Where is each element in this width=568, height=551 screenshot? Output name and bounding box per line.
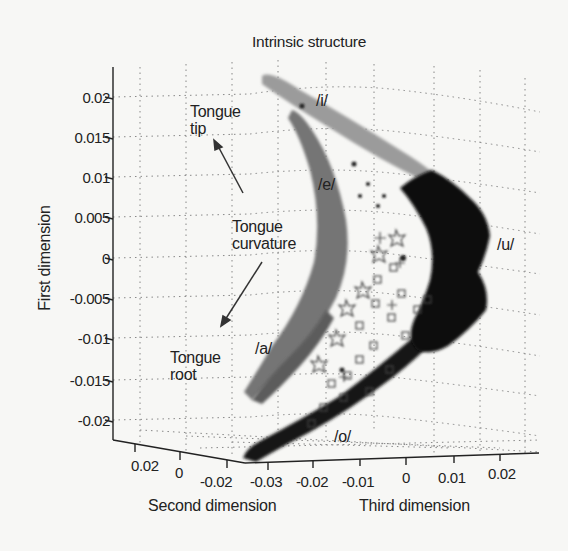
second-dimension-label: Second dimension bbox=[148, 497, 276, 515]
y-tick-label: -0.02 bbox=[78, 412, 110, 429]
third-dim-tick-label: 0.02 bbox=[488, 465, 516, 482]
third-dimension-label: Third dimension bbox=[359, 497, 470, 515]
y-tick-label: 0.01 bbox=[82, 169, 110, 186]
third-dim-tick-label: -0.02 bbox=[296, 473, 328, 490]
second-dim-tick-label: -0.02 bbox=[200, 473, 232, 490]
y-tick-label: 0.015 bbox=[74, 129, 110, 146]
data-series-u bbox=[400, 170, 490, 352]
y-tick-label: 0.005 bbox=[74, 209, 110, 226]
y-tick-label: -0.015 bbox=[70, 372, 110, 389]
y-tick-label: 0 bbox=[102, 250, 110, 267]
y-tick-label: 0.02 bbox=[82, 89, 110, 106]
annotation-line: curvature bbox=[232, 235, 296, 252]
vowel-label-e: /e/ bbox=[318, 177, 335, 193]
vowel-label-i: /i/ bbox=[316, 93, 328, 109]
annotation-line: Tongue bbox=[232, 218, 296, 235]
annotation-tongue-root: Tongue root bbox=[170, 349, 221, 383]
annotation-tongue-tip: Tongue tip bbox=[190, 103, 241, 137]
second-dim-tick-label: 0 bbox=[175, 464, 183, 481]
third-dim-tick-label: -0.01 bbox=[342, 473, 374, 490]
vowel-label-a: /a/ bbox=[255, 341, 272, 357]
annotation-line: root bbox=[170, 366, 221, 383]
annotation-line: Tongue bbox=[170, 349, 221, 366]
y-axis-label: First dimension bbox=[36, 205, 54, 310]
data-series-i bbox=[262, 75, 432, 182]
annotation-tongue-curvature: Tongue curvature bbox=[232, 218, 296, 252]
chart-title: Intrinsic structure bbox=[252, 33, 366, 51]
annotation-line: tip bbox=[190, 120, 241, 137]
second-dim-tick-label: 0.02 bbox=[131, 457, 159, 474]
y-tick-label: -0.005 bbox=[70, 290, 110, 307]
y-tick-label: -0.01 bbox=[78, 330, 110, 347]
third-dim-tick-label: 0.01 bbox=[438, 469, 466, 486]
vowel-label-o: /o/ bbox=[334, 429, 351, 445]
vowel-label-u: /u/ bbox=[497, 237, 514, 253]
second-dim-tick-label: -0.03 bbox=[250, 473, 282, 490]
third-dim-tick-label: 0 bbox=[402, 469, 410, 486]
scatter-3d-plot bbox=[0, 0, 568, 551]
annotation-line: Tongue bbox=[190, 103, 241, 120]
